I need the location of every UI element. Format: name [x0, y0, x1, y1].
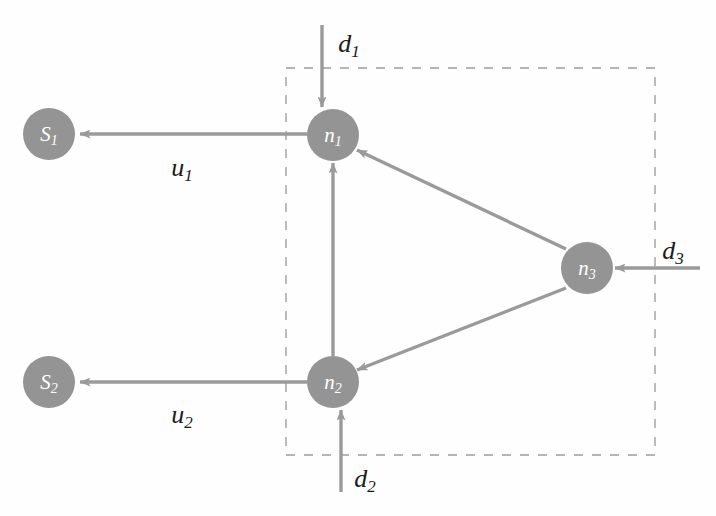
- node-n2[interactable]: n2: [307, 356, 359, 408]
- edge-label-u2: u2: [171, 400, 193, 432]
- node-n3[interactable]: n3: [561, 242, 613, 294]
- edge-label-d1: d1: [338, 29, 360, 61]
- edge-n3-n2: [357, 288, 566, 370]
- diagram-canvas: S1S2n1n2n3 u1u2d1d2d3: [0, 0, 716, 516]
- node-layer: S1S2n1n2n3: [23, 108, 613, 408]
- node-n1[interactable]: n1: [307, 109, 359, 161]
- node-s2[interactable]: S2: [23, 356, 75, 408]
- edge-label-d2: d2: [354, 464, 376, 496]
- edge-label-u1: u1: [171, 153, 193, 185]
- node-s1[interactable]: S1: [23, 108, 75, 160]
- network-diagram: S1S2n1n2n3 u1u2d1d2d3: [0, 0, 716, 516]
- edge-n3-n1: [357, 150, 566, 249]
- edge-label-d3: d3: [662, 236, 684, 268]
